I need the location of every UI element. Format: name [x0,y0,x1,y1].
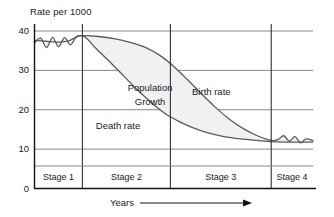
y-tick-30: 30 [7,65,29,75]
stage-label-3: Stage 3 [186,173,256,182]
annotation-death-rate: Death rate [78,121,158,131]
chart-figure: Rate per 1000 010203040 Stage 1Stage 2St… [0,0,334,217]
stage-label-2: Stage 2 [91,173,161,182]
annotation-birth-rate: Birth rate [171,87,251,97]
y-tick-40: 40 [7,26,29,36]
y-tick-10: 10 [7,144,29,154]
stage-label-1: Stage 1 [24,173,94,182]
years-arrow [140,199,252,206]
y-axis-title: Rate per 1000 [30,7,92,17]
x-axis-title: Years [110,198,134,208]
stage-label-4: Stage 4 [257,173,327,182]
annotation-growth: Growth [110,97,190,107]
y-tick-20: 20 [7,105,29,115]
y-tick-0: 0 [7,184,29,194]
demographic-transition-chart [0,0,334,217]
